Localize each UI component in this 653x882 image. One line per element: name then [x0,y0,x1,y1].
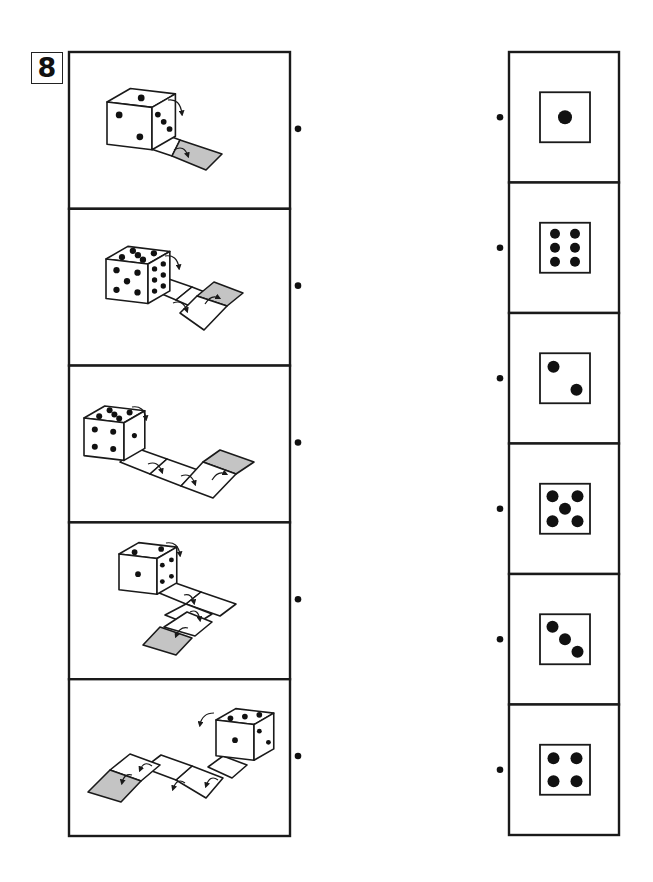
match-connector-dot [497,244,504,251]
face-pip [559,633,571,645]
die-face-2 [540,353,590,403]
die-pip [257,729,262,734]
answer-option-face-2[interactable] [497,313,619,444]
die-pip [116,416,122,422]
face-pip [547,621,559,633]
die-pip [161,119,167,125]
match-connector-dot [295,282,302,289]
die-pip [266,740,271,745]
panel-frame [69,52,290,209]
die-pip [132,433,137,438]
die-pip [155,112,161,118]
right-face-column [497,52,619,835]
die-pip [92,426,98,432]
die-pip [92,444,98,450]
die-pip [124,278,130,284]
face-pip [548,361,560,373]
die-pip [136,133,143,140]
die [216,709,274,761]
match-connector-dot [295,126,302,133]
die-pip [228,715,234,721]
face-pip [547,490,559,502]
die-pip [161,261,166,266]
die-pip [256,712,262,718]
die-pip [111,411,117,417]
match-connector-dot [497,766,504,773]
path-panel-3[interactable] [69,366,301,523]
face-pip [572,515,584,527]
face-pip [570,243,580,253]
face-pip [548,775,560,787]
dice-matching-diagram [0,0,653,882]
die-pip [151,250,157,256]
die-pip [130,248,136,254]
die-pip [134,270,140,276]
face-pip [548,752,560,764]
path-panel-2[interactable] [69,209,301,366]
die-pip [110,429,116,435]
answer-option-face-4[interactable] [497,705,619,836]
face-pip [550,257,560,267]
die [106,246,170,303]
face-pip [559,503,571,515]
die-pip [96,413,102,419]
die-pip [232,737,238,743]
die [107,89,175,150]
die-face-6 [540,223,590,273]
die-front-face [107,102,152,150]
die-pip [113,267,119,273]
die-pip [135,252,141,258]
die-pip [158,546,164,552]
match-connector-dot [497,114,504,121]
match-connector-dot [295,596,302,603]
die-pip [161,283,166,288]
face-pip [547,515,559,527]
die-pip [160,563,165,568]
answer-option-face-6[interactable] [497,183,619,314]
face-pip [570,257,580,267]
die-pip [242,714,248,720]
die-pip [135,571,141,577]
die-face-4 [540,745,590,795]
die-pip [161,272,166,277]
die-pip [113,287,119,293]
face-pip [550,243,560,253]
die-pip [160,579,165,584]
match-connector-dot [497,505,504,512]
die-pip [134,289,140,295]
face-pip [571,752,583,764]
match-connector-dot [295,753,302,760]
path-panel-5[interactable] [69,679,301,836]
face-pip [572,490,584,502]
path-panel-4[interactable] [69,522,301,679]
face-pip [571,384,583,396]
die-pip [110,446,116,452]
face-pip [570,229,580,239]
path-panel-1[interactable] [69,52,301,209]
die-pip [119,254,125,260]
left-path-column [69,52,301,836]
die-pip [132,549,138,555]
die [119,543,177,595]
match-connector-dot [497,375,504,382]
die-pip [169,574,174,579]
die-pip [116,112,123,119]
die-pip [152,277,157,282]
match-connector-dot [497,636,504,643]
face-pip [550,229,560,239]
die [84,406,145,460]
die-pip [127,410,133,416]
die-pip [169,557,174,562]
face-pip [572,646,584,658]
die-pip [152,288,157,293]
answer-option-face-3[interactable] [497,574,619,705]
die-pip [167,126,173,132]
die-pip [138,95,145,102]
die-pip [107,407,113,413]
die-pip [152,266,157,271]
face-pip [558,110,572,124]
face-pip [571,775,583,787]
answer-option-face-5[interactable] [497,444,619,575]
answer-option-face-1[interactable] [497,52,619,183]
match-connector-dot [295,439,302,446]
